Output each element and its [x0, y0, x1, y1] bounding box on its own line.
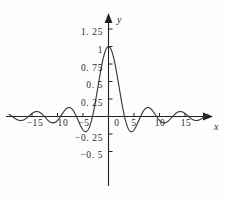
y-tick-label: 0. 75	[81, 64, 103, 74]
y-tick-label: 0. 5	[86, 81, 103, 91]
y-axis-arrowhead	[105, 13, 113, 23]
x-axis-label: x	[214, 122, 218, 132]
y-tick-label: 0. 25	[81, 99, 103, 109]
plot-canvas	[0, 0, 227, 201]
x-tick-label: 5	[128, 119, 140, 129]
y-tick-label: 1	[98, 46, 103, 56]
x-tick-label: 15	[176, 119, 196, 129]
y-tick-label: −0. 25	[75, 134, 103, 144]
x-tick-label: −10	[48, 119, 72, 129]
sinc-function-plot: 1. 25 1 0. 75 0. 5 0. 25 −0. 25 −0. 5 −1…	[0, 0, 227, 201]
x-tick-label: −5	[74, 119, 94, 129]
y-tick-label: 1. 25	[81, 28, 103, 38]
x-tick-label: −15	[23, 119, 47, 129]
x-tick-label: 0	[111, 119, 123, 129]
y-axis	[105, 13, 113, 186]
x-tick-label: 10	[150, 119, 170, 129]
y-axis-label: y	[117, 15, 121, 25]
y-tick-label: −0. 5	[80, 151, 103, 161]
